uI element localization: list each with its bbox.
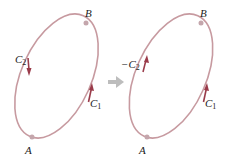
- transition-arrow-icon: [108, 76, 124, 88]
- label-subscript: 2: [22, 58, 26, 67]
- right-curve-loop: [112, 1, 229, 150]
- label-subscript: 2: [136, 63, 140, 72]
- label-subscript: 1: [212, 102, 216, 111]
- label-c2: C2: [15, 54, 26, 67]
- label-point-a: A: [139, 145, 146, 156]
- point-a: [145, 135, 150, 140]
- point-b: [199, 21, 204, 26]
- label-neg-c2: −C2: [121, 59, 140, 72]
- diagram-canvas: [0, 0, 229, 159]
- point-a: [30, 135, 35, 140]
- label-subscript: 1: [97, 102, 101, 111]
- label-c1: C1: [90, 98, 101, 111]
- label-c1: C1: [205, 98, 216, 111]
- point-b: [84, 21, 89, 26]
- label-point-b: B: [200, 8, 207, 19]
- label-base: C: [128, 58, 135, 70]
- label-point-b: B: [85, 8, 92, 19]
- left-curve-loop: [0, 1, 115, 150]
- label-point-a: A: [25, 145, 32, 156]
